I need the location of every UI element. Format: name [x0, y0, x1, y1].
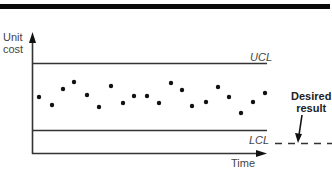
desired-result-label: Desired result [291, 90, 331, 114]
control-chart [0, 0, 332, 175]
data-point [72, 80, 76, 84]
desired-label-line2: result [291, 102, 331, 114]
data-point [190, 104, 194, 108]
data-point [227, 95, 231, 99]
lcl-label: LCL [249, 134, 269, 146]
data-point [180, 88, 184, 92]
data-point [169, 81, 173, 85]
data-point [204, 100, 208, 104]
data-point [263, 91, 267, 95]
data-point [239, 111, 243, 115]
data-point [37, 95, 41, 99]
y-axis-label-line2: cost [3, 43, 23, 55]
data-point [216, 85, 220, 89]
x-axis-arrow-icon [256, 150, 267, 157]
y-axis-label-line1: Unit [3, 31, 23, 43]
data-point [157, 101, 161, 105]
data-point [132, 94, 136, 98]
data-point [145, 94, 149, 98]
data-point [85, 93, 89, 97]
desired-label-line1: Desired [291, 90, 331, 102]
data-point [121, 101, 125, 105]
y-axis-arrow-icon [29, 32, 36, 43]
x-axis-label: Time [231, 157, 255, 169]
desired-arrow-shaft [299, 115, 302, 135]
data-point [50, 103, 54, 107]
data-points [37, 80, 267, 115]
y-axis-label: Unit cost [3, 31, 23, 55]
ucl-label: UCL [250, 51, 272, 63]
data-point [61, 87, 65, 91]
data-point [97, 105, 101, 109]
desired-arrow-icon [295, 133, 302, 143]
data-point [251, 100, 255, 104]
data-point [109, 84, 113, 88]
